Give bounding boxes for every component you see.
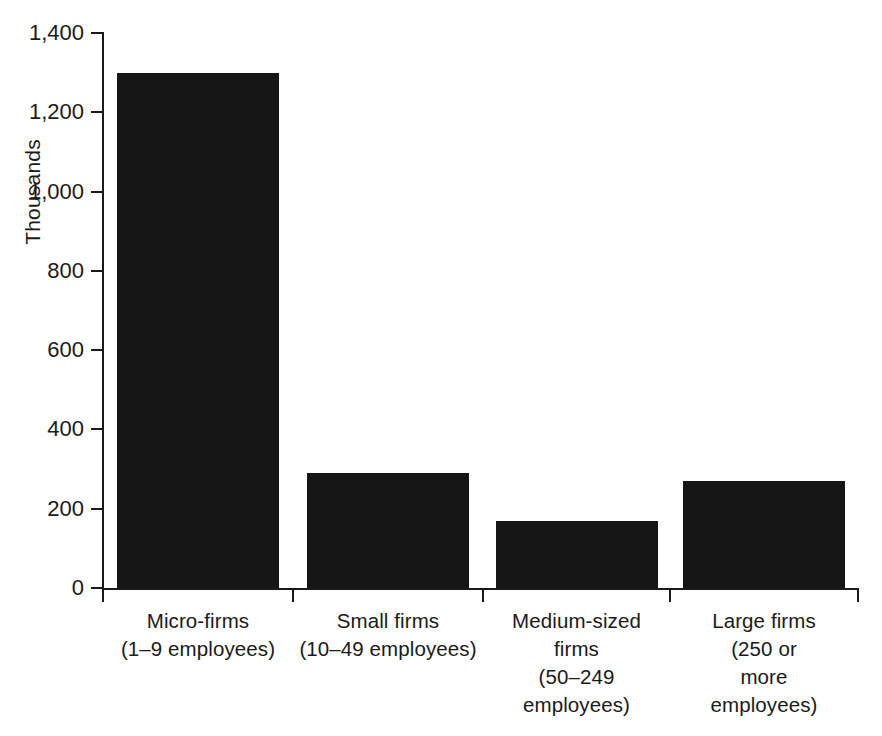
y-tick-label: 800 — [8, 260, 84, 282]
x-category-line: (10–49 employees) — [283, 635, 493, 663]
x-category-line: Medium-sized — [472, 607, 682, 635]
x-tick-mark — [292, 590, 294, 602]
bar-chart: Thousands 1,4001,2001,0008006004002000 M… — [0, 0, 882, 736]
x-category-label-1: Micro-firms(1–9 employees) — [93, 607, 303, 663]
y-tick-label: 1,400 — [8, 22, 84, 44]
x-category-line: employees) — [472, 691, 682, 719]
x-category-line: employees) — [659, 691, 869, 719]
x-category-label-3: Medium-sizedfirms(50–249employees) — [472, 607, 682, 719]
y-tick-mark — [91, 508, 102, 510]
y-tick-label: 1,200 — [8, 101, 84, 123]
y-tick-mark — [91, 111, 102, 113]
y-tick-label: 400 — [8, 418, 84, 440]
y-tick-mark — [91, 191, 102, 193]
y-tick-mark — [91, 428, 102, 430]
x-category-line: more — [659, 663, 869, 691]
y-tick-mark — [91, 587, 102, 589]
y-axis-line — [102, 32, 104, 589]
bar-3 — [496, 521, 658, 588]
x-category-line: Large firms — [659, 607, 869, 635]
y-tick-label: 0 — [8, 577, 84, 599]
x-tick-mark — [482, 590, 484, 602]
x-tick-mark — [102, 590, 104, 602]
x-category-line: Small firms — [283, 607, 493, 635]
y-tick-mark — [91, 270, 102, 272]
x-category-line: firms — [472, 635, 682, 663]
x-category-line: Micro-firms — [93, 607, 303, 635]
x-tick-mark — [857, 590, 859, 602]
y-tick-mark — [91, 32, 102, 34]
x-axis-line — [102, 588, 859, 590]
x-category-line: (50–249 — [472, 663, 682, 691]
y-tick-label: 200 — [8, 498, 84, 520]
x-tick-mark — [669, 590, 671, 602]
bar-1 — [117, 73, 279, 588]
x-category-line: (250 or — [659, 635, 869, 663]
bar-2 — [307, 473, 469, 588]
y-tick-label: 1,000 — [8, 181, 84, 203]
y-tick-label: 600 — [8, 339, 84, 361]
x-category-label-2: Small firms(10–49 employees) — [283, 607, 493, 663]
x-category-line: (1–9 employees) — [93, 635, 303, 663]
y-tick-mark — [91, 349, 102, 351]
bar-4 — [683, 481, 845, 588]
x-category-label-4: Large firms(250 ormoreemployees) — [659, 607, 869, 719]
